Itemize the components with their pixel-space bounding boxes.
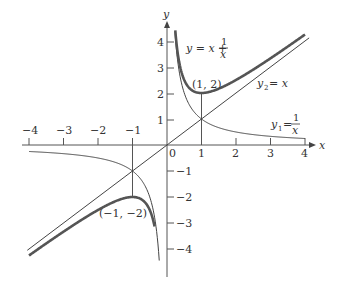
- x-tick-label: 1: [198, 147, 205, 160]
- svg-text:1: 1: [221, 36, 227, 47]
- curve-y-equals-x: [27, 38, 309, 250]
- y-tick-label: 1: [157, 114, 164, 127]
- svg-text:1: 1: [293, 112, 299, 123]
- sum-curve-label: y = x + 1 x: [185, 36, 228, 61]
- x-axis-arrow-icon: [309, 142, 316, 148]
- y2-label: y 2 = x: [256, 77, 289, 92]
- y-tick-label: −4: [176, 243, 192, 256]
- x-axis-label: x: [319, 139, 326, 152]
- x-ticks: −4 −3 −2 −1 0 1 2 3 4: [22, 124, 308, 160]
- y-tick-label: 2: [157, 88, 164, 101]
- x-tick-label: 3: [267, 147, 274, 160]
- y-axis-arrow-icon: [164, 21, 170, 28]
- x-tick-label: −3: [56, 124, 72, 137]
- origin-label: 0: [169, 147, 176, 160]
- y1-label: y 1 = 1 x: [270, 112, 300, 137]
- x-tick-label: −4: [22, 124, 38, 137]
- point-label-min: (−1, −2): [99, 207, 147, 220]
- point-label-max: (1, 2): [192, 78, 222, 91]
- y-ticks: 4 3 2 1 −1 −2 −3 −4: [157, 36, 192, 256]
- x-tick-label: −1: [125, 124, 141, 137]
- x-tick-label: 2: [232, 147, 239, 160]
- y-tick-label: 3: [157, 62, 164, 75]
- svg-text:=: =: [283, 118, 292, 131]
- y-tick-label: −1: [176, 165, 192, 178]
- x-tick-label: −2: [90, 124, 106, 137]
- svg-text:y: y: [270, 118, 278, 131]
- y-tick-label: −2: [176, 191, 192, 204]
- svg-text:y: y: [256, 77, 264, 90]
- svg-text:2: 2: [264, 84, 268, 92]
- function-graph: x y −4 −3 −2 −1 0 1 2 3 4 4 3 2 1 −1: [0, 0, 340, 289]
- svg-text:1: 1: [278, 125, 282, 133]
- x-tick-label: 4: [301, 147, 308, 160]
- svg-text:x: x: [292, 124, 299, 137]
- y-axis-label: y: [162, 8, 170, 21]
- svg-text:= x: = x: [269, 77, 289, 90]
- y-tick-label: 4: [157, 36, 164, 49]
- svg-text:x: x: [220, 48, 227, 61]
- curve-sum-negative: [29, 197, 155, 256]
- y-tick-label: −3: [176, 217, 192, 230]
- axes: x y: [22, 8, 326, 277]
